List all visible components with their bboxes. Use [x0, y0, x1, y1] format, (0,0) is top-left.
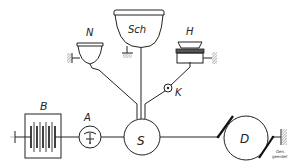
- ammeter-A: A: [79, 112, 101, 148]
- battery-B: B: [25, 100, 61, 158]
- label-N: N: [86, 27, 94, 38]
- bowl-N: N: [67, 27, 103, 70]
- label-K: K: [175, 87, 183, 98]
- label-H: H: [186, 26, 194, 37]
- junction-S: S: [124, 119, 160, 155]
- ground-note-line2: geerdet: [272, 154, 288, 159]
- label-S: S: [137, 134, 145, 148]
- contact-K: K: [164, 84, 183, 98]
- left-terminal-icon: [10, 131, 15, 143]
- feed-wires: [99, 48, 190, 119]
- label-A: A: [83, 112, 91, 123]
- label-D: D: [240, 132, 249, 146]
- circuit-diagram: B A S N S: [0, 0, 301, 168]
- ground-note: Gen. geerdet: [272, 149, 288, 159]
- label-B: B: [40, 100, 48, 113]
- bowl-Sch: Sch: [114, 10, 164, 58]
- label-Sch: Sch: [128, 24, 146, 35]
- receiver-H: H: [176, 26, 217, 64]
